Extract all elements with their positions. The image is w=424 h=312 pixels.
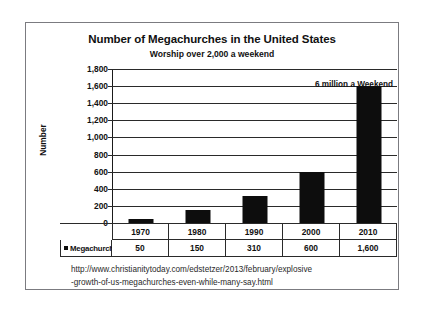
y-tick-label: 800 [64, 150, 108, 160]
square-marker-icon [64, 246, 68, 250]
table-header-year: 2000 [283, 223, 340, 240]
chart-title: Number of Megachurches in the United Sta… [26, 33, 398, 45]
y-tick-label: 1,600 [64, 81, 108, 91]
chart-frame: Number of Megachurches in the United Sta… [25, 22, 399, 290]
y-tick-label: 1,400 [64, 98, 108, 108]
source-url-line-1: http://www.christianitytoday.com/edstetz… [71, 263, 391, 276]
annotation-6-million-a-weekend: 6 million a Weekend [315, 80, 393, 89]
legend-entry-megachurches: Megachurches [60, 240, 112, 257]
bar-1980 [185, 210, 210, 223]
bar-slot [112, 69, 169, 223]
table-cell-value: 310 [226, 240, 283, 257]
bar-1990 [242, 196, 267, 223]
y-axis-title: Number [38, 110, 48, 170]
y-tick-label: 600 [64, 167, 108, 177]
source-url-line-2: -growth-of-us-megachurches-even-while-ma… [71, 276, 391, 289]
y-axis-tick-labels: 1,8001,6001,4001,2001,0008006004002000 [64, 69, 108, 223]
source-url: http://www.christianitytoday.com/edstetz… [71, 263, 391, 289]
data-table: 19701980199020002010 Megachurches5015031… [60, 223, 397, 257]
y-tick-label: 200 [64, 201, 108, 211]
table-header-year: 1980 [169, 223, 226, 240]
bar-2000 [299, 172, 324, 223]
table-header-year: 1970 [112, 223, 169, 240]
bar-slot [169, 69, 226, 223]
bar-slot [283, 69, 340, 223]
table-row: 19701980199020002010 [60, 223, 397, 240]
table-cell-value: 50 [112, 240, 169, 257]
table-header-year: 2010 [340, 223, 397, 240]
table-cell-value: 600 [283, 240, 340, 257]
table-row: Megachurches501503106001,600 [60, 240, 397, 257]
chart-subtitle: Worship over 2,000 a weekend [26, 49, 398, 59]
table-corner-spacer [60, 223, 112, 240]
y-tick-label: 1,800 [64, 64, 108, 74]
table-header-year: 1990 [226, 223, 283, 240]
y-tick-label: 1,200 [64, 115, 108, 125]
plot-area: 6 million a Weekend [112, 69, 397, 223]
table-cell-value: 150 [169, 240, 226, 257]
bar-slot [340, 69, 397, 223]
table-cell-value: 1,600 [340, 240, 397, 257]
bar-2010 [356, 86, 381, 223]
y-tick-label: 1,000 [64, 132, 108, 142]
y-tick-label: 400 [64, 184, 108, 194]
bar-series-megachurches [112, 69, 397, 223]
bar-slot [226, 69, 283, 223]
